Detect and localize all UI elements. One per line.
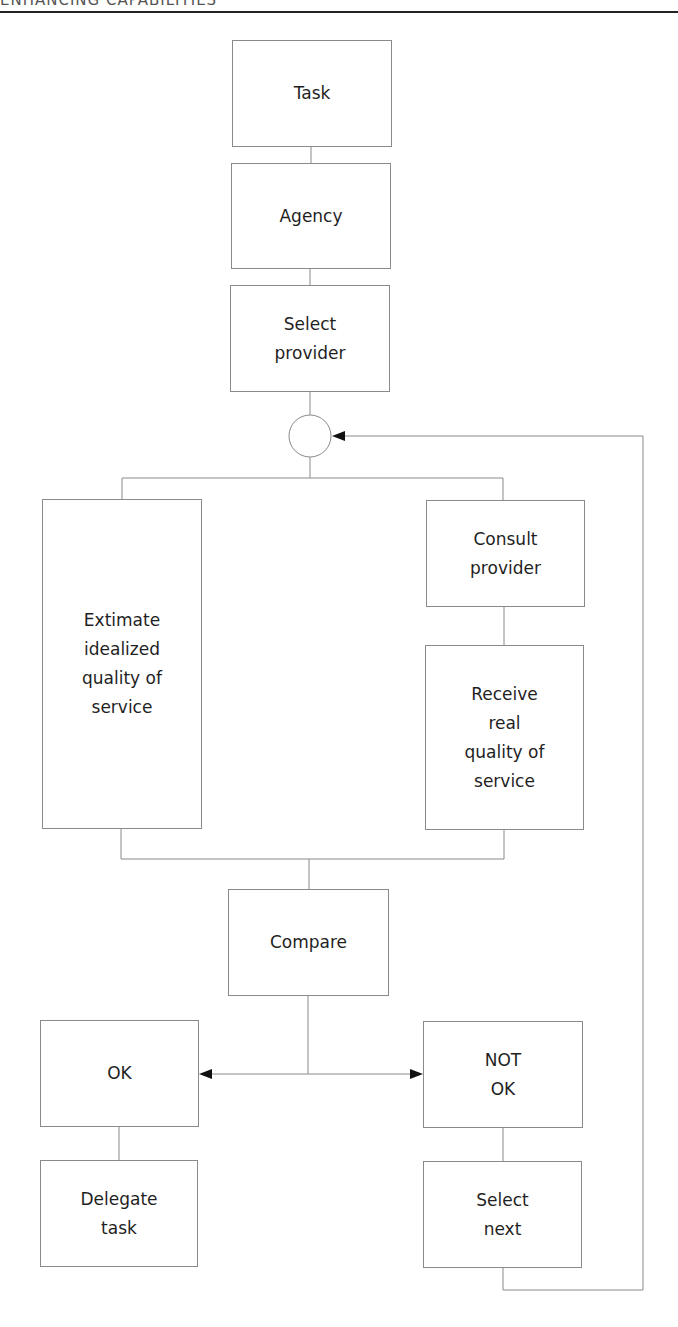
node-ok: OK [40, 1020, 199, 1127]
node-select-next-label: Select next [476, 1186, 528, 1244]
not-ok-arrowhead [410, 1069, 423, 1079]
node-select-provider-label: Select provider [275, 310, 346, 368]
node-estimate-idealized-qos: Extimate idealized quality of service [42, 499, 202, 829]
junction-circle [289, 415, 331, 457]
node-delegate-task: Delegate task [40, 1160, 198, 1267]
node-consult-provider-label: Consult provider [470, 525, 541, 583]
node-agency: Agency [231, 163, 391, 269]
node-delegate-task-label: Delegate task [80, 1185, 157, 1243]
ok-arrowhead [199, 1069, 212, 1079]
node-consult-provider: Consult provider [426, 500, 585, 607]
node-estimate-label: Extimate idealized quality of service [82, 606, 162, 722]
node-receive-real-label: Receive real quality of service [465, 680, 545, 796]
feedback-arrowhead [332, 431, 345, 441]
node-select-next: Select next [423, 1161, 582, 1268]
node-ok-label: OK [107, 1059, 132, 1088]
node-receive-real-qos: Receive real quality of service [425, 645, 584, 830]
node-not-ok: NOT OK [423, 1021, 583, 1128]
node-select-provider: Select provider [230, 285, 390, 392]
node-task: Task [232, 40, 392, 147]
node-compare: Compare [228, 889, 389, 996]
node-agency-label: Agency [279, 202, 342, 231]
node-compare-label: Compare [270, 928, 347, 957]
node-task-label: Task [294, 79, 331, 108]
node-not-ok-label: NOT OK [485, 1046, 521, 1104]
